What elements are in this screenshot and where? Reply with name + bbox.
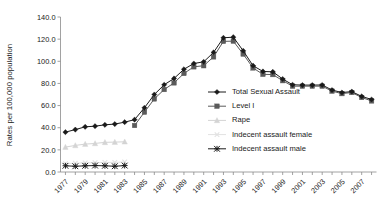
y-tick-label: 100.0 [37,57,56,66]
legend-label: Total Sexual Assault [232,87,301,96]
asterisk-marker [112,163,118,169]
x-tick-label: 1979 [72,177,90,195]
diamond-marker [122,120,127,125]
legend-item[interactable]: Indecent assault male [208,144,306,153]
x-tick-label: 1977 [52,177,70,195]
x-tick-label: 1983 [112,177,130,195]
asterisk-marker [122,163,128,169]
square-marker [162,87,167,92]
series-rape [63,139,128,149]
x-tick-label: 2003 [309,177,327,195]
y-tick-label: 60.0 [41,101,55,110]
x-tick-label: 1997 [250,177,268,195]
x-tick-label: 2007 [349,177,367,195]
x-tick-label: 1993 [210,177,228,195]
legend-label: Indecent assault male [232,144,306,153]
diamond-marker [92,124,97,129]
square-marker [215,104,220,109]
line-chart: 0.020.040.060.080.0100.0120.0140.0197719… [0,0,389,214]
diamond-marker [102,122,107,127]
asterisk-marker [82,163,88,169]
y-axis-title: Rates per 100,000 population [5,44,14,146]
series-level-i [132,39,374,128]
diamond-marker [63,130,68,135]
chart-legend: Total Sexual AssaultLevel IRapeIndecent … [208,87,312,153]
asterisk-marker [214,146,220,152]
y-tick-label: 20.0 [41,146,55,155]
x-tick-label: 2005 [329,177,347,195]
x-tick-label: 1981 [92,177,110,195]
x-tick-label: 1985 [131,177,149,195]
legend-label: Rape [232,115,250,124]
y-tick-label: 140.0 [37,13,56,22]
x-axis-ticks: 1977197919811983198519871989199119931995… [52,172,371,195]
diamond-marker [214,89,219,94]
legend-item[interactable]: Rape [208,115,250,124]
series-line [135,41,372,125]
series-line [65,37,371,132]
x-tick-label: 2001 [289,177,307,195]
diamond-marker [83,124,88,129]
legend-label: Level I [232,101,254,110]
diamond-marker [73,127,78,132]
legend-item[interactable]: Total Sexual Assault [208,87,301,96]
legend-item[interactable]: Indecent assault female [208,130,312,139]
square-marker [132,123,137,128]
legend-item[interactable]: Level I [208,101,254,110]
asterisk-marker [92,163,98,169]
asterisk-marker [63,163,69,169]
x-tick-label: 1999 [270,177,288,195]
x-tick-label: 1995 [230,177,248,195]
x-tick-label: 1987 [151,177,169,195]
y-tick-label: 80.0 [41,79,55,88]
y-axis-title-text: Rates per 100,000 population [5,44,14,146]
x-tick-label: 1991 [191,177,209,195]
y-tick-label: 0.0 [45,168,55,177]
y-tick-label: 120.0 [37,35,56,44]
legend-label: Indecent assault female [232,130,312,139]
chart-canvas: 0.020.040.060.080.0100.0120.0140.0197719… [0,0,389,214]
series-indecent-assault-male [63,163,128,169]
asterisk-marker [72,163,78,169]
diamond-marker [112,121,117,126]
asterisk-marker [102,163,108,169]
y-axis-ticks: 0.020.040.060.080.0100.0120.0140.0 [37,13,61,177]
x-tick-label: 1989 [171,177,189,195]
y-tick-label: 40.0 [41,123,55,132]
